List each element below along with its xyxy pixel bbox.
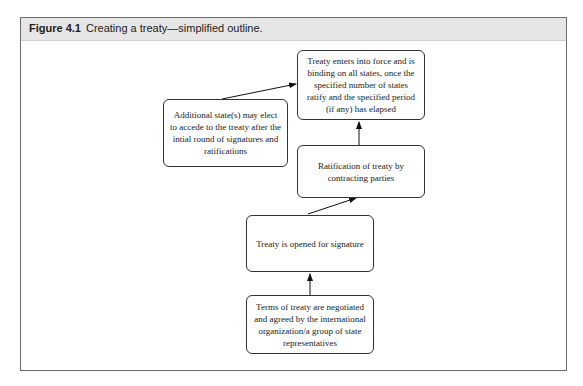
node-additional-accession-text: Additional state(s) may elect to accede …: [170, 109, 281, 157]
node-entry-into-force: Treaty enters into force and is binding …: [297, 50, 425, 120]
node-opened-for-signature-text: Treaty is opened for signature: [256, 238, 364, 250]
node-negotiation: Terms of treaty are negotiated and agree…: [246, 295, 374, 354]
node-ratification: Ratification of treaty by contracting pa…: [297, 145, 425, 198]
node-ratification-text: Ratification of treaty by contracting pa…: [304, 160, 418, 184]
figure-caption: Figure 4.1Creating a treaty—simplified o…: [29, 22, 263, 34]
figure-label: Figure 4.1: [29, 22, 81, 34]
figure-caption-text: Creating a treaty—simplified outline.: [86, 22, 263, 34]
node-negotiation-text: Terms of treaty are negotiated and agree…: [253, 301, 367, 349]
node-entry-into-force-text: Treaty enters into force and is binding …: [304, 55, 418, 115]
node-additional-accession: Additional state(s) may elect to accede …: [163, 99, 288, 167]
figure-header: Figure 4.1Creating a treaty—simplified o…: [21, 18, 566, 41]
node-opened-for-signature: Treaty is opened for signature: [246, 215, 374, 272]
